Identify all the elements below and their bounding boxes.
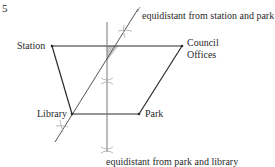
edge-library-station (52, 46, 72, 114)
bisector-station-park (55, 9, 138, 142)
label-park: Park (145, 109, 163, 119)
loci-diagram (0, 0, 275, 167)
annotation-station-park: equidistant from station and park (142, 11, 274, 21)
annotation-park-library: equidistant from park and library (106, 157, 238, 167)
point-park (138, 113, 141, 116)
point-station (51, 45, 54, 48)
label-library: Library (37, 109, 67, 119)
label-council-line2: Offices (187, 50, 216, 60)
construction-arcs (56, 25, 132, 153)
point-library (71, 113, 74, 116)
point-council (181, 45, 184, 48)
edge-council-park (139, 46, 182, 114)
label-council-line1: Council (187, 38, 219, 48)
label-station: Station (17, 41, 45, 51)
shaded-region (107, 46, 119, 61)
